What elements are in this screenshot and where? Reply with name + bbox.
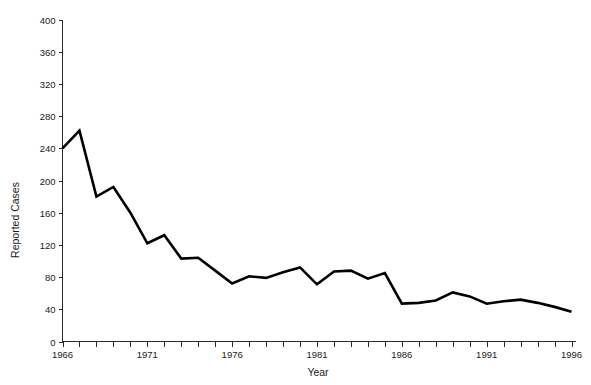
y-tick-label: 400	[40, 15, 56, 26]
y-tick-label: 240	[40, 143, 56, 154]
y-tick-label: 80	[45, 272, 56, 283]
x-tick-label: 1971	[137, 349, 158, 360]
axis-lines	[63, 20, 576, 342]
y-tick-label: 360	[40, 47, 56, 58]
x-tick-label: 1996	[561, 349, 582, 360]
y-tick-label: 280	[40, 111, 56, 122]
y-axis-ticks	[59, 21, 63, 343]
y-axis-title: Reported Cases	[9, 182, 21, 258]
x-tick-label: 1966	[52, 349, 73, 360]
y-axis-tick-labels: 04080120160200240280320360400	[40, 15, 56, 348]
line-chart-figure: Reported Cases Year 04080120160200240280…	[0, 0, 591, 385]
chart-canvas: Reported Cases Year 04080120160200240280…	[0, 0, 591, 385]
y-tick-label: 320	[40, 79, 56, 90]
y-tick-label: 40	[45, 304, 56, 315]
y-axis-title-group: Reported Cases	[9, 182, 21, 258]
x-axis-ticks	[64, 342, 573, 347]
data-series-line	[63, 131, 572, 312]
y-tick-label: 120	[40, 240, 56, 251]
x-tick-label: 1991	[476, 349, 497, 360]
x-axis-title: Year	[307, 366, 329, 378]
x-axis-tick-labels: 1966197119761981198619911996	[52, 349, 582, 360]
x-tick-label: 1981	[306, 349, 327, 360]
x-tick-label: 1976	[222, 349, 243, 360]
y-tick-label: 160	[40, 208, 56, 219]
y-tick-label: 0	[50, 337, 55, 348]
y-tick-label: 200	[40, 176, 56, 187]
x-tick-label: 1986	[391, 349, 412, 360]
